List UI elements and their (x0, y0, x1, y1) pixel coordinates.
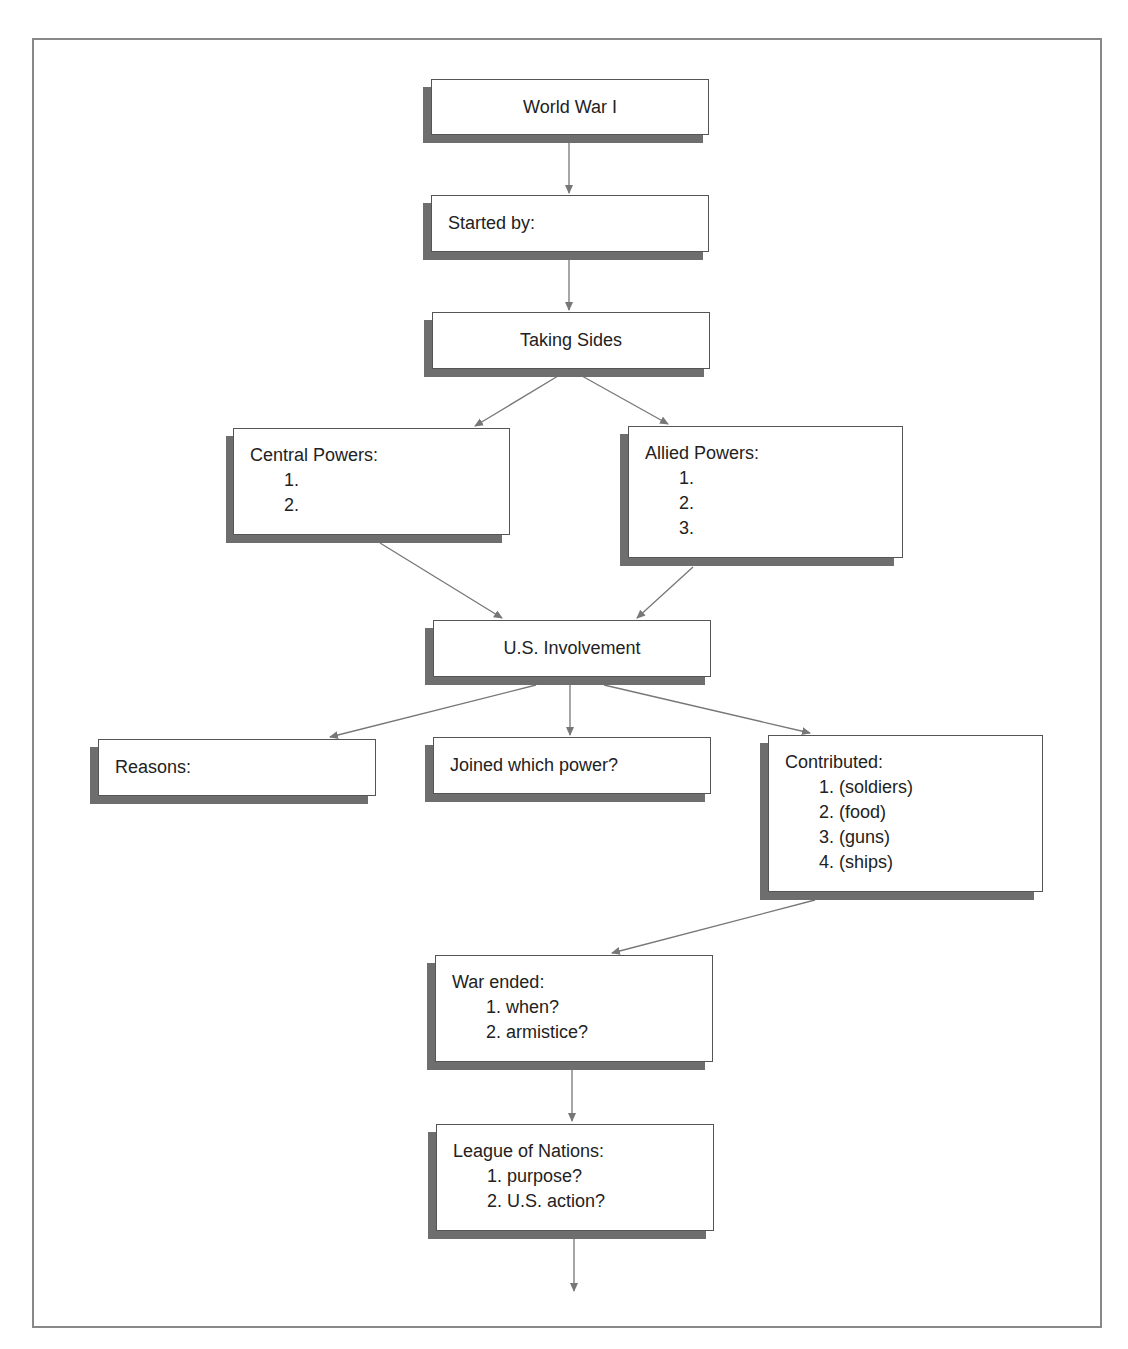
node-label: U.S. Involvement (503, 636, 640, 661)
list-item: 3. (guns) (785, 825, 1026, 850)
node-label: Reasons: (115, 755, 375, 780)
list-item: 3. (645, 516, 886, 541)
node-label: Taking Sides (520, 328, 622, 353)
node-label: League of Nations: (453, 1139, 697, 1164)
node-label: World War I (523, 95, 617, 120)
list-item: 2. armistice? (452, 1020, 696, 1045)
list-item: 2. (250, 493, 493, 518)
list-item: 1. (645, 466, 886, 491)
node-label: Started by: (448, 211, 708, 236)
list-item: 1. (soldiers) (785, 775, 1026, 800)
list-item: 1. when? (452, 995, 696, 1020)
list-item: 2. (food) (785, 800, 1026, 825)
node-label: Joined which power? (450, 753, 710, 778)
node-label: Allied Powers: (645, 441, 886, 466)
node-label: War ended: (452, 970, 696, 995)
list-item: 1. (250, 468, 493, 493)
list-item: 2. U.S. action? (453, 1189, 697, 1214)
node-label: Contributed: (785, 750, 1026, 775)
list-item: 2. (645, 491, 886, 516)
list-item: 4. (ships) (785, 850, 1026, 875)
list-item: 1. purpose? (453, 1164, 697, 1189)
node-label: Central Powers: (250, 443, 493, 468)
